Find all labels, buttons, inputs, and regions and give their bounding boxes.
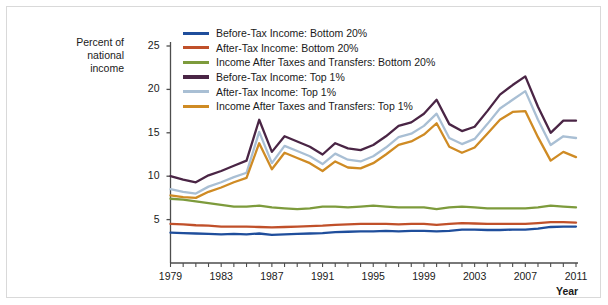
series-line bbox=[171, 227, 577, 235]
series-line bbox=[171, 222, 577, 227]
x-tick-label: 1999 bbox=[404, 270, 444, 282]
x-tick-label: 1995 bbox=[353, 270, 393, 282]
y-tick-label: 10 bbox=[134, 169, 160, 181]
series-line bbox=[171, 76, 577, 182]
y-tick-label: 20 bbox=[134, 82, 160, 94]
x-tick-label: 2003 bbox=[455, 270, 495, 282]
plot-area: 5101520251979198319871991199519992003200… bbox=[0, 0, 608, 305]
x-tick-label: 1979 bbox=[151, 270, 191, 282]
data-series-group bbox=[171, 76, 577, 234]
x-tick-label: 2007 bbox=[505, 270, 545, 282]
plot-svg bbox=[0, 0, 608, 305]
series-line bbox=[171, 199, 577, 209]
series-line bbox=[171, 91, 577, 193]
series-line bbox=[171, 111, 577, 198]
x-tick-label: 1983 bbox=[201, 270, 241, 282]
chart-page: Percent of national income Year Before-T… bbox=[0, 0, 608, 305]
y-tick-label: 15 bbox=[134, 126, 160, 138]
y-tick-label: 25 bbox=[134, 39, 160, 51]
x-tick-label: 1987 bbox=[252, 270, 292, 282]
y-tick-label: 5 bbox=[134, 213, 160, 225]
x-tick-label: 2011 bbox=[556, 270, 596, 282]
x-tick-label: 1991 bbox=[303, 270, 343, 282]
